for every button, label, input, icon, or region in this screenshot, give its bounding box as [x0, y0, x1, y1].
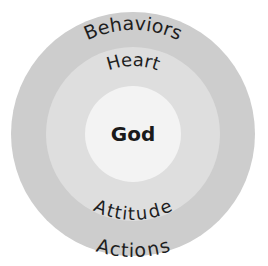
- concentric-diagram: Behaviors Heart Attitude Actions God: [0, 0, 268, 266]
- center-label: God: [111, 122, 155, 146]
